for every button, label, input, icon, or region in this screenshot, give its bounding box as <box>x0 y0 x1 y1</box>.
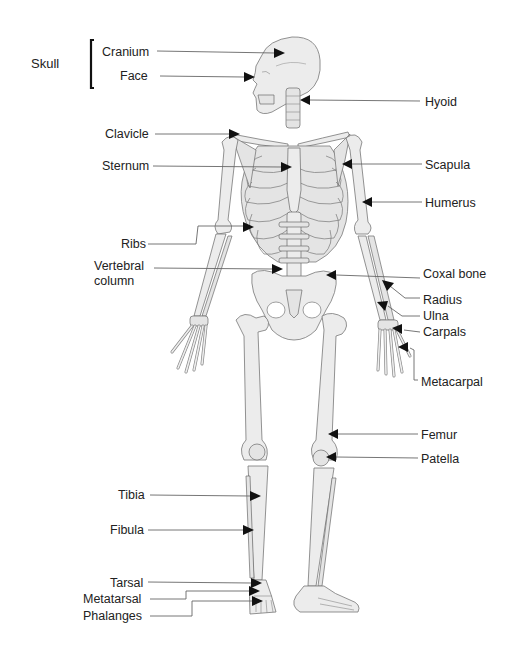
label-carpals: Carpals <box>423 325 466 339</box>
label-vertebral-column-line2: column <box>94 274 134 288</box>
label-metatarsal: Metatarsal <box>83 592 141 606</box>
label-coxal-bone: Coxal bone <box>423 267 486 281</box>
label-patella: Patella <box>421 452 459 466</box>
skeleton-diagram: Skull Cranium Face Hyoid Clavicle Sternu… <box>0 0 514 656</box>
hand-left <box>172 316 208 372</box>
label-metacarpal: Metacarpal <box>421 375 483 389</box>
foot-right <box>294 586 359 612</box>
label-cranium: Cranium <box>102 45 149 59</box>
cervical-spine <box>286 88 300 128</box>
label-sternum: Sternum <box>102 159 149 173</box>
label-ribs: Ribs <box>121 237 146 251</box>
skull-bracket <box>91 40 94 88</box>
label-femur: Femur <box>421 428 457 442</box>
humerus-left <box>215 136 238 234</box>
label-radius: Radius <box>423 293 462 307</box>
sternum <box>287 148 301 214</box>
label-scapula: Scapula <box>425 158 470 172</box>
label-tibia: Tibia <box>118 488 145 502</box>
patella-left <box>249 444 265 460</box>
humerus-right <box>346 135 371 234</box>
label-fibula: Fibula <box>110 523 144 537</box>
label-humerus: Humerus <box>425 196 476 210</box>
label-ulna: Ulna <box>423 309 449 323</box>
label-clavicle: Clavicle <box>105 127 149 141</box>
label-tarsal: Tarsal <box>110 576 143 590</box>
femur-right <box>311 313 346 460</box>
patella-right <box>313 450 329 466</box>
label-vertebral-column-line1: Vertebral <box>94 259 144 273</box>
label-skull: Skull <box>31 57 59 71</box>
label-phalanges: Phalanges <box>83 609 142 623</box>
femur-left <box>236 314 269 460</box>
vertebral-column <box>279 212 309 280</box>
label-hyoid: Hyoid <box>425 95 457 109</box>
label-face: Face <box>120 69 148 83</box>
